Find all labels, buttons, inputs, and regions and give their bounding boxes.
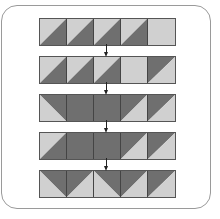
- pattern-cell-dark: [94, 133, 121, 159]
- pattern-cell-ld-br: [40, 57, 67, 83]
- pattern-cell-dl-br: [148, 95, 175, 121]
- pattern-cell-dl-br: [121, 171, 148, 197]
- pattern-row-4: [39, 132, 176, 160]
- pattern-cell-light: [121, 57, 148, 83]
- pattern-row-2: [39, 56, 176, 84]
- pattern-cell-dark: [67, 95, 94, 121]
- pattern-cell-dl-br: [148, 171, 175, 197]
- pattern-cell-ld-br: [40, 133, 67, 159]
- pattern-cell-dl-br: [148, 57, 175, 83]
- pattern-cell-dl-br: [121, 95, 148, 121]
- pattern-row-1: [39, 18, 176, 46]
- pattern-cell-dtr: [94, 171, 121, 197]
- pattern-row-5: [39, 170, 176, 198]
- pattern-cell-dl-br: [148, 133, 175, 159]
- pattern-cell-dark: [94, 95, 121, 121]
- down-arrow-icon: [104, 44, 109, 58]
- pattern-cell-ld-br: [67, 19, 94, 45]
- pattern-cell-ld-br: [94, 19, 121, 45]
- pattern-cell-ld-br: [121, 19, 148, 45]
- pattern-cell-ld-br: [94, 57, 121, 83]
- pattern-cell-dl-br: [121, 133, 148, 159]
- pattern-cell-dl-br: [67, 171, 94, 197]
- pattern-cell-dtr: [40, 95, 67, 121]
- down-arrow-icon: [104, 82, 109, 96]
- pattern-row-3: [39, 94, 176, 122]
- down-arrow-icon: [104, 120, 109, 134]
- down-arrow-icon: [104, 158, 109, 172]
- pattern-cell-light: [148, 19, 175, 45]
- pattern-cell-ld-br: [40, 19, 67, 45]
- pattern-cell-ld-br: [67, 57, 94, 83]
- pattern-cell-dtr: [40, 171, 67, 197]
- pattern-cell-dark: [67, 133, 94, 159]
